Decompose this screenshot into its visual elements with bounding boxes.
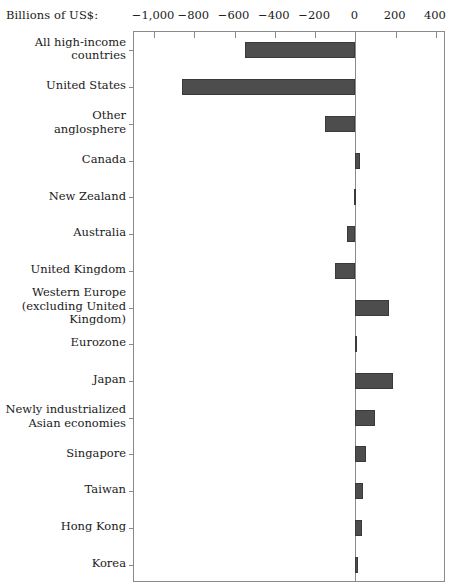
y-tick-mark: [129, 124, 134, 125]
y-axis-label: Japan: [0, 373, 126, 387]
y-tick-mark: [129, 565, 134, 566]
bar: [355, 483, 363, 499]
y-tick-mark: [129, 161, 134, 162]
x-tick-label--1000: −1,000: [132, 8, 175, 22]
y-tick-mark: [129, 197, 134, 198]
x-axis-caption: Billions of US$:: [6, 8, 98, 22]
y-axis-label: Eurozone: [0, 336, 126, 350]
x-tick-label--400: −400: [258, 8, 290, 22]
x-tick-label-400: 400: [424, 8, 446, 22]
x-tick-mark--400: [275, 32, 276, 38]
y-axis-label: Western Europe (excluding United Kingdom…: [0, 286, 126, 327]
x-tick-label--600: −600: [218, 8, 250, 22]
y-tick-mark: [129, 308, 134, 309]
x-tick-mark--800: [194, 32, 195, 38]
x-tick-label-200: 200: [384, 8, 406, 22]
x-tick-mark--1000: [154, 32, 155, 38]
y-axis-label: Hong Kong: [0, 520, 126, 534]
y-tick-mark: [129, 491, 134, 492]
x-tick-label-0: 0: [351, 8, 358, 22]
y-axis-label: Taiwan: [0, 483, 126, 497]
y-axis-label: Singapore: [0, 447, 126, 461]
y-tick-mark: [129, 87, 134, 88]
bar: [355, 373, 392, 389]
bar: [355, 446, 366, 462]
y-axis-label: Australia: [0, 226, 126, 240]
x-tick-label--800: −800: [178, 8, 210, 22]
bar: [355, 336, 357, 352]
y-axis-label: Newly industrialized Asian economies: [0, 403, 126, 430]
x-tick-mark--200: [315, 32, 316, 38]
y-tick-mark: [129, 418, 134, 419]
bar: [355, 557, 357, 573]
y-axis-label: United States: [0, 79, 126, 93]
y-axis-label: United Kingdom: [0, 263, 126, 277]
y-tick-mark: [129, 271, 134, 272]
bar: [245, 42, 356, 58]
bar: [355, 520, 362, 536]
bar: [325, 116, 355, 132]
bar: [355, 410, 374, 426]
bar: [335, 263, 355, 279]
x-tick-label--200: −200: [298, 8, 330, 22]
x-tick-mark-200: [396, 32, 397, 38]
y-tick-mark: [129, 50, 134, 51]
bar: [347, 226, 355, 242]
y-axis-label: Canada: [0, 153, 126, 167]
y-tick-mark: [129, 528, 134, 529]
y-tick-mark: [129, 454, 134, 455]
y-axis-label: New Zealand: [0, 190, 126, 204]
x-tick-mark-400: [436, 32, 437, 38]
horizontal-bar-chart: Billions of US$: −1,000−800−600−400−2000…: [0, 0, 456, 586]
bar: [355, 300, 388, 316]
x-tick-mark--600: [235, 32, 236, 38]
bar: [354, 189, 356, 205]
y-axis-label: Korea: [0, 557, 126, 571]
y-axis-label: Other anglosphere: [0, 109, 126, 136]
y-axis-label: All high-income countries: [0, 36, 126, 63]
y-tick-mark: [129, 381, 134, 382]
bar: [355, 153, 360, 169]
y-tick-mark: [129, 234, 134, 235]
plot-area: [133, 31, 445, 582]
y-tick-mark: [129, 344, 134, 345]
bar: [182, 79, 355, 95]
